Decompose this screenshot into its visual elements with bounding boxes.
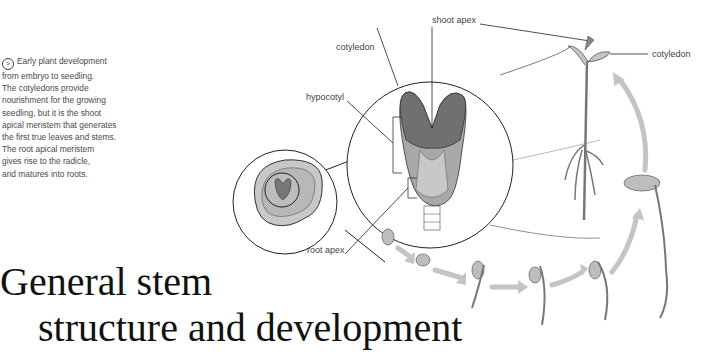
label-root-apex: root apex bbox=[307, 245, 345, 255]
label-cotyledon-left: cotyledon bbox=[336, 42, 375, 52]
page-title-line1: General stem bbox=[0, 262, 212, 302]
seed-embryo-illustration bbox=[233, 150, 337, 254]
page-title-line2: structure and development bbox=[38, 308, 462, 348]
embryo-detail-illustration bbox=[347, 27, 513, 248]
label-cotyledon-right: cotyledon bbox=[652, 49, 691, 59]
seedling-illustration bbox=[565, 36, 610, 220]
label-hypocotyl: hypocotyl bbox=[306, 92, 344, 102]
label-shoot-apex: shoot apex bbox=[432, 15, 476, 25]
